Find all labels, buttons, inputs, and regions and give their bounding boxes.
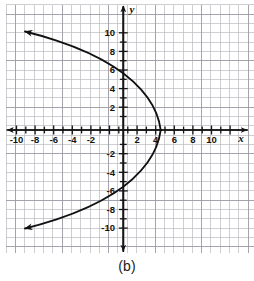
figure-caption: (b) [0,258,254,274]
x-tick-label: -8 [31,134,39,145]
x-tick-label: -2 [87,134,95,145]
y-tick-label: 4 [110,83,116,94]
y-tick-label: 2 [110,102,115,113]
y-axis-label: y [128,3,135,15]
x-tick-label: 10 [206,134,217,145]
x-tick-label: 6 [172,134,177,145]
y-tick-label: -8 [107,204,115,215]
x-tick-label: -4 [68,134,77,145]
graph-figure: -10 -8 -6 -4 -2 2 4 6 8 10 10 8 6 4 2 -2… [0,0,254,281]
x-tick-label: 2 [134,134,139,145]
y-tick-label: -10 [101,222,115,233]
y-tick-label: 8 [110,46,115,57]
x-tick-label: 8 [190,134,195,145]
x-tick-label: -10 [10,134,24,145]
y-tick-label: -2 [107,148,115,159]
y-tick-label: -4 [107,167,116,178]
coordinate-plane: -10 -8 -6 -4 -2 2 4 6 8 10 10 8 6 4 2 -2… [0,0,254,260]
x-axis-label: x [237,132,244,144]
graph-svg: -10 -8 -6 -4 -2 2 4 6 8 10 10 8 6 4 2 -2… [0,0,254,260]
x-tick-label: -6 [49,134,57,145]
y-tick-label: 10 [104,27,115,38]
